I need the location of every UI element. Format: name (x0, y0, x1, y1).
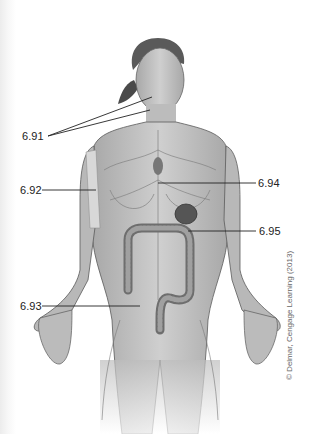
label-6-95: 6.95 (259, 225, 281, 237)
thymus (153, 157, 163, 175)
right-hand (244, 310, 277, 364)
head (136, 48, 184, 112)
right-arm (224, 146, 280, 331)
label-6-94: 6.94 (258, 177, 280, 189)
figure-page: 6.91 6.92 6.93 6.94 6.95 © Delmar, Cenga… (0, 0, 311, 434)
anatomy-illustration (0, 0, 311, 434)
copyright-notice: © Delmar, Cengage Learning (2013) (285, 251, 294, 380)
left-hand (39, 310, 72, 364)
spleen (175, 204, 197, 224)
label-6-92: 6.92 (20, 184, 42, 196)
label-6-91: 6.91 (22, 130, 44, 142)
label-6-93: 6.93 (20, 300, 42, 312)
left-arm (34, 146, 96, 331)
